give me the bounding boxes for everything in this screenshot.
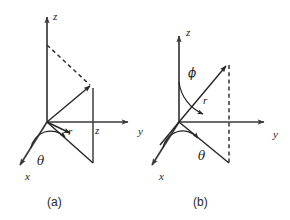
panel-a-cylindrical: z y x r z θ (a) xyxy=(20,10,143,209)
panel-b-radial-label: r xyxy=(203,94,208,106)
panel-a-z-axis-label: z xyxy=(52,10,58,22)
panel-b-phi-label: ϕ xyxy=(188,66,196,80)
panel-a-height-label: z xyxy=(94,124,100,136)
coordinate-systems-figure: z y x r z θ (a) xyxy=(0,0,290,220)
panel-b-caption: (b) xyxy=(193,195,208,209)
panel-a-theta-label: θ xyxy=(37,154,45,168)
figure-canvas: z y x r z θ (a) xyxy=(0,0,290,220)
panel-b-z-axis-label: z xyxy=(185,26,191,38)
panel-b-x-axis-label: x xyxy=(158,170,164,182)
panel-b-x-axis xyxy=(152,122,179,165)
panel-b-theta-label: θ xyxy=(198,149,206,163)
panel-a-y-axis-label: y xyxy=(137,125,143,137)
panel-a-dashed-height-line xyxy=(47,45,90,85)
panel-a-x-axis-label: x xyxy=(24,170,30,182)
panel-a-position-vector xyxy=(47,86,90,122)
panel-b-spherical: z y x ϕ r θ (b) xyxy=(152,26,278,209)
panel-b-vector-extension-line xyxy=(160,122,179,145)
panel-a-radial-label: r xyxy=(68,125,73,137)
panel-b-y-axis-label: y xyxy=(272,128,278,140)
panel-a-caption: (a) xyxy=(47,195,62,209)
